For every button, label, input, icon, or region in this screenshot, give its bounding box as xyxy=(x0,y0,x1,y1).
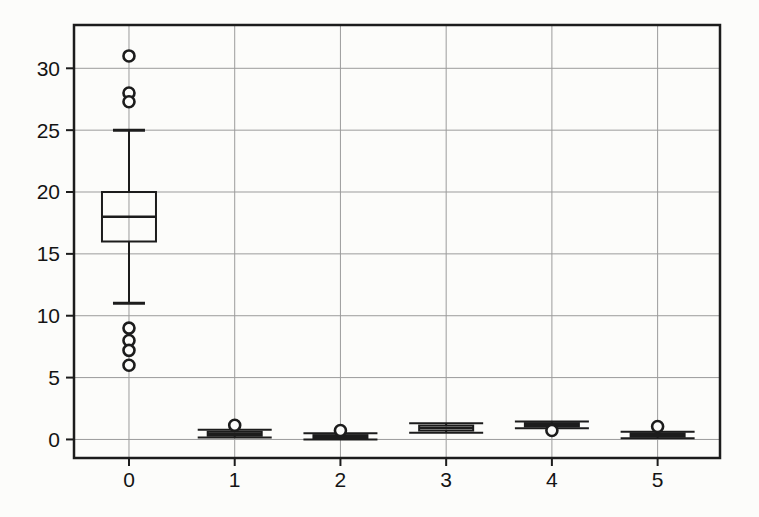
y-tick-label-5: 5 xyxy=(48,366,60,389)
y-tick-label-0: 0 xyxy=(48,428,60,451)
y-tick-label-20: 20 xyxy=(37,180,60,203)
x-tick-label-2: 2 xyxy=(335,468,347,491)
y-tick-label-30: 30 xyxy=(37,57,60,80)
outlier-marker xyxy=(123,50,134,61)
x-tick-label-3: 3 xyxy=(440,468,452,491)
page: 051015202530012345 xyxy=(0,0,759,517)
box-group-3 xyxy=(409,423,483,432)
boxplot-figure: 051015202530012345 xyxy=(0,0,759,517)
x-tick-label-4: 4 xyxy=(546,468,558,491)
x-tick-label-5: 5 xyxy=(652,468,664,491)
outlier-marker xyxy=(123,323,134,334)
outlier-marker xyxy=(335,425,346,436)
outlier-marker xyxy=(229,420,240,431)
y-tick-label-15: 15 xyxy=(37,242,60,265)
x-tick-label-1: 1 xyxy=(229,468,241,491)
outlier-marker xyxy=(546,425,557,436)
boxplot-chart: 051015202530012345 xyxy=(0,0,759,517)
outlier-marker xyxy=(123,360,134,371)
y-tick-label-25: 25 xyxy=(37,119,60,142)
outlier-marker xyxy=(652,421,663,432)
y-tick-label-10: 10 xyxy=(37,304,60,327)
outlier-marker xyxy=(123,345,134,356)
x-tick-label-0: 0 xyxy=(123,468,135,491)
outlier-marker xyxy=(123,96,134,107)
